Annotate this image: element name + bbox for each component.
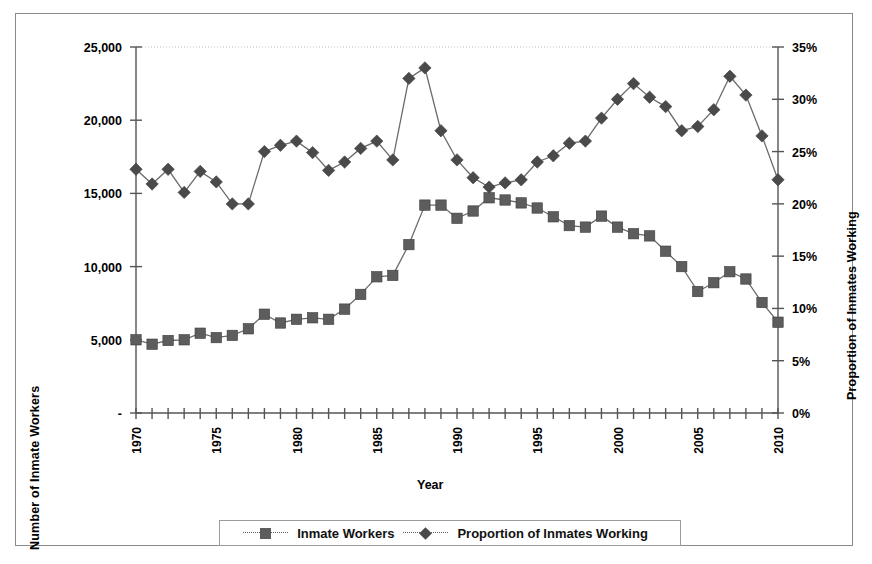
data-point-square <box>484 193 494 203</box>
legend-line-icon <box>271 532 288 534</box>
data-point-square <box>564 220 574 230</box>
y-axis-left-tick-label: 15,000 <box>84 187 122 201</box>
data-point-square <box>596 211 606 221</box>
data-point-square <box>307 313 317 323</box>
data-point-diamond <box>676 125 688 137</box>
data-point-square <box>436 200 446 210</box>
data-point-square <box>243 324 253 334</box>
y-axis-left-tick-label: 25,000 <box>84 41 122 55</box>
x-axis-tick-label: 1975 <box>210 427 224 454</box>
data-point-square <box>356 289 366 299</box>
data-point-diamond <box>419 62 431 74</box>
data-point-square <box>757 297 767 307</box>
data-point-diamond <box>483 181 495 193</box>
data-point-square <box>195 328 205 338</box>
data-point-diamond <box>258 145 270 157</box>
data-point-square <box>725 267 735 277</box>
data-point-square <box>532 203 542 213</box>
data-point-diamond <box>242 198 254 210</box>
data-point-square <box>709 278 719 288</box>
x-axis-tick-label: 1990 <box>451 427 465 454</box>
data-point-diamond <box>403 72 415 84</box>
data-point-square <box>339 304 349 314</box>
data-point-square <box>291 314 301 324</box>
data-point-diamond <box>579 135 591 147</box>
chart-legend: Inmate Workers Proportion of Inmates Wor… <box>219 520 681 546</box>
data-point-diamond <box>194 165 206 177</box>
data-point-diamond <box>290 135 302 147</box>
data-point-square <box>677 261 687 271</box>
y-axis-left-tick-label: 10,000 <box>84 261 122 275</box>
data-point-diamond <box>274 139 286 151</box>
y-axis-right-tick-label: 30% <box>792 93 817 107</box>
legend-item-inmate-workers[interactable]: Inmate Workers <box>243 526 403 541</box>
data-point-square <box>259 309 269 319</box>
data-point-square <box>372 272 382 282</box>
data-point-square <box>163 335 173 345</box>
data-point-diamond <box>772 174 784 186</box>
y-axis-right-tick-label: 10% <box>792 302 817 316</box>
data-point-square <box>131 335 141 345</box>
data-point-diamond <box>178 186 190 198</box>
x-axis-tick-label: 2010 <box>772 427 786 454</box>
data-point-diamond <box>210 176 222 188</box>
legend-label: Proportion of Inmates Working <box>448 526 656 541</box>
y-axis-left-tick-label: 5,000 <box>91 334 122 348</box>
data-point-diamond <box>547 150 559 162</box>
data-point-square <box>644 231 654 241</box>
data-point-diamond <box>756 130 768 142</box>
data-point-square <box>516 198 526 208</box>
data-point-square <box>628 229 638 239</box>
legend-line-icon <box>243 532 260 534</box>
data-point-square <box>323 314 333 324</box>
y-axis-right-title: Proportion of Inmates Working <box>845 211 859 400</box>
y-axis-right-tick-label: 0% <box>792 407 810 421</box>
x-axis-tick-label: 1980 <box>291 427 305 454</box>
legend-line-icon <box>431 532 448 534</box>
data-point-square <box>147 339 157 349</box>
data-point-square <box>741 274 751 284</box>
y-axis-left-title: Number of Inmate Workers <box>28 526 42 550</box>
y-axis-right-tick-label: 5% <box>792 355 810 369</box>
y-axis-left-tick-label: 20,000 <box>84 114 122 128</box>
y-axis-right-tick-label: 25% <box>792 146 817 160</box>
data-point-square <box>548 212 558 222</box>
data-point-square <box>773 317 783 327</box>
data-point-square <box>612 222 622 232</box>
data-point-square <box>468 206 478 216</box>
data-point-diamond <box>563 137 576 149</box>
data-point-diamond <box>435 125 447 137</box>
data-point-square <box>693 286 703 296</box>
data-point-square <box>404 239 414 249</box>
y-axis-left-tick-label: - <box>118 407 122 421</box>
data-point-square <box>388 270 398 280</box>
data-point-diamond <box>226 198 238 210</box>
x-axis-tick-label: 1985 <box>371 427 385 454</box>
data-point-square <box>500 195 510 205</box>
data-point-square <box>452 213 462 223</box>
data-point-square <box>275 318 285 328</box>
x-axis-title: Year <box>417 478 443 492</box>
diamond-marker-icon <box>420 527 433 540</box>
data-point-diamond <box>499 177 511 189</box>
data-point-square <box>580 222 590 232</box>
data-point-square <box>227 330 237 340</box>
data-point-square <box>660 246 670 256</box>
x-axis-tick-label: 2000 <box>612 427 626 454</box>
data-point-square <box>420 200 430 210</box>
x-axis-tick-label: 2005 <box>692 427 706 454</box>
data-point-square <box>211 332 221 342</box>
data-point-square <box>179 335 189 345</box>
square-marker-icon <box>260 528 271 539</box>
data-point-diamond <box>659 100 672 112</box>
y-axis-right-tick-label: 20% <box>792 198 817 212</box>
x-axis-tick-label: 1995 <box>531 427 545 454</box>
x-axis-tick-label: 1970 <box>130 427 144 454</box>
y-axis-right-tick-label: 15% <box>792 250 817 264</box>
legend-item-proportion-working[interactable]: Proportion of Inmates Working <box>403 526 656 541</box>
legend-label: Inmate Workers <box>288 526 403 541</box>
y-axis-right-tick-label: 35% <box>792 41 817 55</box>
